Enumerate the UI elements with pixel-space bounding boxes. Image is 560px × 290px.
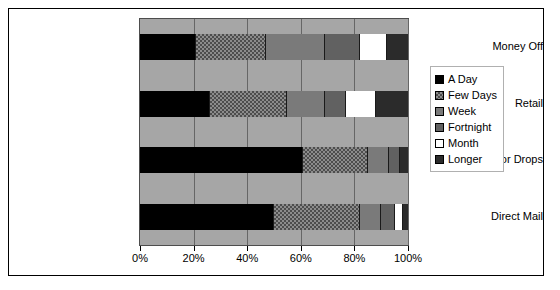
bar-segment[interactable] xyxy=(400,147,408,173)
legend-swatch-icon xyxy=(435,107,444,116)
legend-item[interactable]: Week xyxy=(435,103,497,119)
legend-item[interactable]: Few Days xyxy=(435,87,497,103)
legend-swatch-icon xyxy=(435,139,444,148)
bar-segment[interactable] xyxy=(196,34,266,60)
x-tick-label: 20% xyxy=(183,252,205,264)
x-axis: 0%20%40%60%80%100% xyxy=(139,246,409,272)
category-label: Direct Mail xyxy=(419,210,543,222)
legend-item[interactable]: Fortnight xyxy=(435,119,497,135)
bar-segment[interactable] xyxy=(274,204,360,230)
legend-item[interactable]: A Day xyxy=(435,71,497,87)
bar-segment[interactable] xyxy=(346,91,375,117)
legend-swatch-icon xyxy=(435,123,444,132)
bar-segment[interactable] xyxy=(389,147,400,173)
bar-segment[interactable] xyxy=(395,204,403,230)
bar-segment[interactable] xyxy=(360,34,387,60)
legend-label: Week xyxy=(448,105,476,117)
stacked-bar[interactable] xyxy=(140,91,408,117)
bar-row xyxy=(140,91,408,117)
legend-label: Few Days xyxy=(448,89,497,101)
x-tick xyxy=(140,246,141,251)
legend-swatch-icon xyxy=(435,155,444,164)
bar-row xyxy=(140,34,408,60)
legend-item[interactable]: Month xyxy=(435,135,497,151)
stacked-bar[interactable] xyxy=(140,147,408,173)
bar-segment[interactable] xyxy=(360,204,381,230)
gridline xyxy=(408,19,409,245)
legend-label: Month xyxy=(448,137,479,149)
x-tick xyxy=(408,246,409,251)
stacked-bar[interactable] xyxy=(140,34,408,60)
bar-row xyxy=(140,147,408,173)
bar-segment[interactable] xyxy=(287,91,325,117)
bar-segment[interactable] xyxy=(325,34,360,60)
x-tick-label: 100% xyxy=(394,252,422,264)
x-tick-label: 0% xyxy=(132,252,148,264)
bar-segment[interactable] xyxy=(140,147,303,173)
x-tick-label: 40% xyxy=(236,252,258,264)
bar-segment[interactable] xyxy=(140,204,274,230)
bar-segment[interactable] xyxy=(325,91,346,117)
bar-segment[interactable] xyxy=(376,91,408,117)
bar-segment[interactable] xyxy=(140,34,196,60)
bar-segment[interactable] xyxy=(381,204,394,230)
plot-area xyxy=(139,18,409,246)
legend-label: Fortnight xyxy=(448,121,491,133)
bar-segment[interactable] xyxy=(266,34,325,60)
x-tick xyxy=(247,246,248,251)
bar-segment[interactable] xyxy=(387,34,408,60)
chart-frame: Money OffRetailDoor DropsDirect Mail 0%2… xyxy=(8,8,544,276)
x-tick xyxy=(354,246,355,251)
legend-label: A Day xyxy=(448,73,477,85)
bar-segment[interactable] xyxy=(210,91,288,117)
bar-segment[interactable] xyxy=(403,204,408,230)
bar-segment[interactable] xyxy=(368,147,389,173)
chart-legend: A DayFew DaysWeekFortnightMonthLonger xyxy=(430,66,504,172)
bar-row xyxy=(140,204,408,230)
x-tick-label: 80% xyxy=(343,252,365,264)
legend-swatch-icon xyxy=(435,91,444,100)
legend-swatch-icon xyxy=(435,75,444,84)
x-tick xyxy=(301,246,302,251)
bar-segment[interactable] xyxy=(303,147,367,173)
category-label: Money Off xyxy=(419,40,543,52)
legend-item[interactable]: Longer xyxy=(435,151,497,167)
x-tick-label: 60% xyxy=(290,252,312,264)
x-tick xyxy=(194,246,195,251)
bar-segment[interactable] xyxy=(140,91,210,117)
legend-label: Longer xyxy=(448,153,482,165)
stacked-bar[interactable] xyxy=(140,204,408,230)
